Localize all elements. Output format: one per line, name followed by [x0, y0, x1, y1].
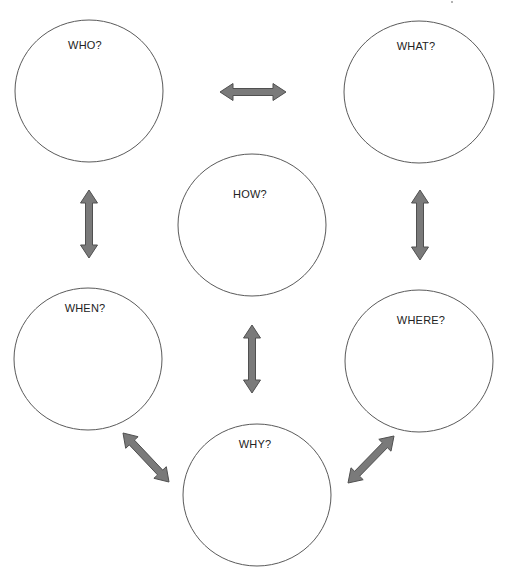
node-circle-where: [345, 290, 493, 432]
node-label-who: WHO?: [68, 39, 102, 51]
double-arrow-icon-who-when: [81, 190, 98, 258]
node-circle-how: [178, 154, 326, 296]
double-arrow-icon-when-why: [123, 433, 169, 482]
node-label-when: WHEN?: [65, 302, 106, 314]
stray-mark: [451, 1, 453, 3]
node-label-why: WHY?: [239, 438, 272, 450]
nodes-layer: [14, 20, 494, 566]
double-arrow-icon-what-where: [412, 190, 429, 260]
double-arrow-icon-who-what: [220, 84, 286, 101]
double-arrow-icon-how-why: [244, 325, 261, 393]
double-arrow-icon-where-why: [348, 436, 394, 483]
node-label-what: WHAT?: [397, 40, 436, 52]
node-label-how: HOW?: [233, 188, 267, 200]
node-label-where: WHERE?: [397, 314, 445, 326]
five-w-diagram: [0, 0, 507, 581]
